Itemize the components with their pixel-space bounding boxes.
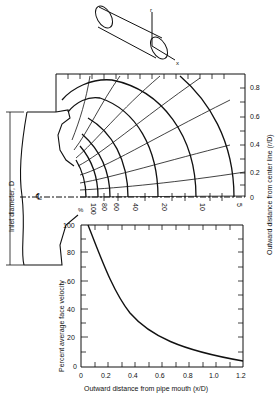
v-tick-60: 60 bbox=[67, 278, 75, 285]
velocity-y-axis-label: Percent average face velocity bbox=[58, 280, 66, 372]
velocity-decay-curve bbox=[88, 225, 243, 361]
contour-label-5: 5 bbox=[236, 203, 243, 207]
contour-plot bbox=[20, 74, 245, 201]
contour-label-20: 20 bbox=[161, 203, 168, 211]
inlet-pipe bbox=[6, 110, 78, 265]
x-tick-0: 0 bbox=[79, 372, 83, 379]
contour-y-axis-label: Outward distance from center line (r/D) bbox=[266, 134, 274, 255]
v-tick-0: 0 bbox=[73, 363, 77, 370]
v-tick-100: 100 bbox=[63, 222, 75, 229]
r-tick-0: 0 bbox=[250, 194, 254, 201]
contour-label-40: 40 bbox=[132, 203, 139, 211]
contour-label-80: 80 bbox=[101, 203, 108, 211]
axis-r-label: r bbox=[150, 7, 152, 13]
v-tick-20: 20 bbox=[67, 334, 75, 341]
r-tick-0.2: 0.2 bbox=[250, 169, 260, 176]
r-tick-0.6: 0.6 bbox=[250, 113, 260, 120]
x-tick-0.4: 0.4 bbox=[128, 372, 138, 379]
inlet-diameter-label: Inlet diameter, D bbox=[8, 181, 15, 232]
v-tick-40: 40 bbox=[67, 306, 75, 313]
x-tick-0.6: 0.6 bbox=[155, 372, 165, 379]
x-tick-0.2: 0.2 bbox=[101, 372, 111, 379]
velocity-x-axis-label: Outward distance from pipe mouth (x/D) bbox=[84, 385, 208, 393]
contour-label-60: 60 bbox=[113, 203, 120, 211]
inlet-velocity-figure: r x bbox=[0, 0, 277, 398]
velocity-plot bbox=[81, 225, 243, 367]
x-tick-1.2: 1.2 bbox=[236, 372, 246, 379]
axis-x-label: x bbox=[176, 60, 179, 66]
v-tick-80: 80 bbox=[67, 249, 75, 256]
percent-symbol: % bbox=[78, 207, 84, 213]
cylinder-sketch bbox=[92, 3, 175, 62]
x-tick-0.8: 0.8 bbox=[183, 372, 193, 379]
centerline-symbol: ℄ bbox=[35, 192, 42, 202]
x-tick-1.0: 1.0 bbox=[209, 372, 219, 379]
contour-label-10: 10 bbox=[199, 203, 206, 211]
contour-label-100: 100 bbox=[90, 203, 97, 215]
r-tick-0.8: 0.8 bbox=[250, 84, 260, 91]
r-tick-0.4: 0.4 bbox=[250, 141, 260, 148]
